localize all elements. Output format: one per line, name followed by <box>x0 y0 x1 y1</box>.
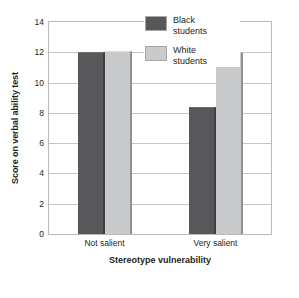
y-axis-tick-label: 12 <box>22 48 44 57</box>
y-axis-tick-label: 2 <box>22 199 44 208</box>
y-axis-tick-label: 14 <box>22 18 44 27</box>
y-axis-tick-mark <box>48 234 49 235</box>
legend-item: Black students <box>144 14 240 37</box>
y-axis-tick-mark <box>48 22 49 23</box>
bar-white-students-not-salient <box>105 51 132 234</box>
legend-item: White students <box>144 44 240 67</box>
legend-swatch-light <box>145 46 167 61</box>
y-axis-tick-mark <box>48 204 49 205</box>
y-axis-tick-label: 4 <box>22 169 44 178</box>
y-axis-tick-label: 8 <box>22 109 44 118</box>
legend-item-label: White students <box>173 45 207 66</box>
legend-swatch-dark <box>145 16 167 31</box>
y-axis-tick-label: 0 <box>22 230 44 239</box>
bar-white-students-very-salient <box>216 52 243 234</box>
x-axis-tick-labels: Not salientVery salient <box>48 238 272 252</box>
bar-black-students-very-salient <box>189 107 216 234</box>
y-axis-tick-mark <box>48 173 49 174</box>
y-axis-tick-labels: 02468101214 <box>22 21 44 235</box>
y-axis-tick-mark <box>48 113 49 114</box>
bar-chart-figure: Score on verbal ability test 02468101214… <box>0 0 299 298</box>
y-axis-tick-mark <box>48 52 49 53</box>
y-axis-tick-mark <box>48 83 49 84</box>
y-axis-tick-label: 6 <box>22 139 44 148</box>
x-axis-title: Stereotype vulnerability <box>48 255 272 265</box>
x-axis-tick-label: Not salient <box>84 238 124 248</box>
legend-item-label: Black students <box>173 15 207 36</box>
y-axis-tick-mark <box>48 143 49 144</box>
y-axis-title-text: Score on verbal ability test <box>10 72 20 184</box>
y-axis-title: Score on verbal ability test <box>8 20 22 235</box>
figure-caption <box>62 287 280 294</box>
x-axis-tick-label: Very salient <box>194 238 238 248</box>
chart-legend: Black studentsWhite students <box>144 14 240 74</box>
bar-black-students-not-salient <box>78 52 105 234</box>
y-axis-tick-label: 10 <box>22 78 44 87</box>
